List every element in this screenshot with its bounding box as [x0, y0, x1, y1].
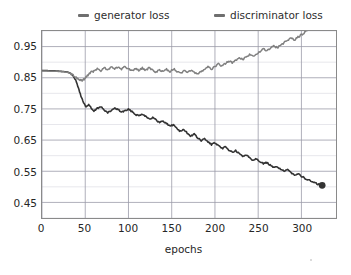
- series-line-generator-loss: [42, 71, 322, 186]
- x-axis-label: epochs: [0, 243, 351, 255]
- series-end-marker-generator-loss: [319, 182, 326, 189]
- x-axis-label-text: epochs: [165, 243, 202, 255]
- y-tick-label: 0.45: [1, 198, 37, 208]
- x-tick-label: 300: [292, 222, 312, 234]
- legend-label-generator-loss: generator loss: [94, 9, 169, 21]
- legend-entry-generator-loss: generator loss: [78, 9, 169, 21]
- legend-entry-discriminator-loss: discriminator loss: [214, 9, 323, 21]
- legend-color-swatch-generator-loss: [78, 14, 89, 17]
- plot-area: [41, 30, 337, 219]
- y-tick-label: 0.95: [1, 41, 37, 51]
- x-tick-label: 0: [38, 222, 45, 234]
- y-tick-label: 0.55: [1, 167, 37, 177]
- y-tick-label: 0.85: [1, 72, 37, 82]
- x-tick-label: 100: [118, 222, 138, 234]
- y-tick-label: 0.65: [1, 135, 37, 145]
- legend-color-swatch-discriminator-loss: [214, 14, 225, 17]
- x-tick-label: 150: [162, 222, 182, 234]
- x-tick-label: 200: [205, 222, 225, 234]
- legend-label-discriminator-loss: discriminator loss: [230, 9, 323, 21]
- scan-artifact-speck: [310, 259, 312, 261]
- chart-legend: generator loss discriminator loss: [0, 9, 351, 27]
- chart-figure: generator loss discriminator loss 0.450.…: [0, 0, 351, 275]
- y-tick-label: 0.75: [1, 104, 37, 114]
- x-tick-label: 250: [249, 222, 269, 234]
- x-axis-tick-labels: 050100150200250300: [0, 222, 351, 238]
- series-line-discriminator-loss: [42, 31, 319, 81]
- x-tick-label: 50: [78, 222, 91, 234]
- chart-series-layer: [42, 31, 336, 218]
